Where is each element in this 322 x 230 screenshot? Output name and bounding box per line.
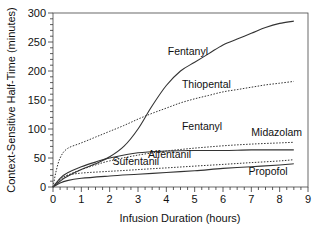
context-sensitive-half-time-chart: 050100150200250300 0123456789 FentanylTh… xyxy=(0,0,322,230)
x-tick-label: 5 xyxy=(192,193,198,205)
x-tick-label: 2 xyxy=(107,193,113,205)
y-tick-label: 250 xyxy=(28,36,46,48)
y-axis: 050100150200250300 xyxy=(28,7,53,193)
x-tick-label: 1 xyxy=(78,193,84,205)
y-tick-label: 300 xyxy=(28,7,46,19)
y-tick-label: 150 xyxy=(28,94,46,106)
plot-frame xyxy=(53,13,308,187)
x-tick-label: 8 xyxy=(277,193,283,205)
series-label-fentanyl: Fentanyl xyxy=(168,45,208,57)
x-tick-label: 9 xyxy=(305,193,311,205)
y-tick-label: 50 xyxy=(34,152,46,164)
series-label-thiopental: Thiopental xyxy=(182,78,231,90)
x-tick-label: 3 xyxy=(135,193,141,205)
x-axis: 0123456789 xyxy=(50,187,311,205)
x-tick-label: 4 xyxy=(163,193,169,205)
series-label-propofol: Propofol xyxy=(249,165,288,177)
y-tick-label: 100 xyxy=(28,123,46,135)
series-label-midazolam: Midazolam xyxy=(251,126,302,138)
annotation-label: Fentanyl xyxy=(182,120,222,132)
y-tick-label: 0 xyxy=(40,181,46,193)
series-labels: FentanylThiopentalMidazolamAlfentanilSuf… xyxy=(113,45,303,178)
x-tick-label: 6 xyxy=(220,193,226,205)
series-label-sufentanil: Sufentanil xyxy=(113,155,160,167)
y-axis-label: Context-Sensitive Half-Time (minutes) xyxy=(5,7,17,192)
y-tick-label: 200 xyxy=(28,65,46,77)
x-tick-label: 7 xyxy=(248,193,254,205)
x-axis-label: Infusion Duration (hours) xyxy=(119,212,240,224)
x-tick-label: 0 xyxy=(50,193,56,205)
